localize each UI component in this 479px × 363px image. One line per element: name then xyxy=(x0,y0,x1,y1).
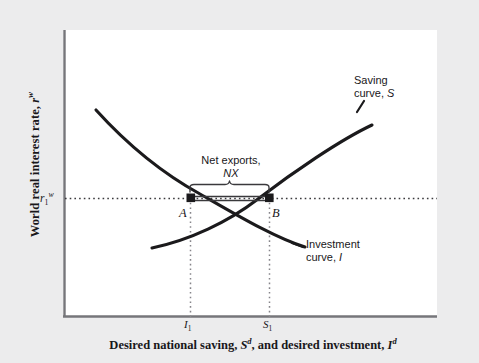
x-tick-label-i1: I1 xyxy=(184,318,191,333)
y-axis-title: World real interest rate, rw xyxy=(25,45,42,285)
x-tick-i-subscript: 1 xyxy=(188,324,192,333)
point-b-marker xyxy=(265,194,274,203)
net-exports-label: Net exports, NX xyxy=(195,154,267,180)
y-axis-title-symbol: r xyxy=(28,98,42,103)
figure-container: World real interest rate, rw Desired nat… xyxy=(0,0,479,363)
x-tick-s-subscript: 1 xyxy=(269,324,273,333)
y-axis-title-superscript: w xyxy=(25,92,35,98)
saving-curve-label: Saving curve, S xyxy=(354,74,394,100)
investment-curve-line1: Investment xyxy=(306,238,360,251)
x-axis-title: Desired national saving, Sd, and desired… xyxy=(63,336,443,353)
y-tick-label-r1w: r1w xyxy=(40,190,54,207)
point-a-label: A xyxy=(179,206,187,221)
point-a-marker xyxy=(187,194,196,203)
saving-label-leader xyxy=(357,101,364,112)
saving-curve-line1: Saving xyxy=(354,74,394,87)
investment-curve-line2-text: curve, xyxy=(306,251,339,263)
saving-curve-symbol: S xyxy=(387,87,394,99)
y-tick-superscript: w xyxy=(48,190,53,199)
y-axis-title-text: World real interest rate, xyxy=(28,103,42,237)
x-axis-title-part2: , and desired investment, xyxy=(252,338,388,352)
net-exports-brace xyxy=(190,181,269,192)
x-axis-title-sup-d2: d xyxy=(392,336,396,346)
net-exports-line2: NX xyxy=(195,167,267,180)
saving-curve-line2-text: curve, xyxy=(354,87,387,99)
investment-curve-label: Investment curve, I xyxy=(306,238,360,264)
investment-curve-symbol: I xyxy=(339,251,342,263)
point-b-label: B xyxy=(272,206,280,221)
saving-curve-line2: curve, S xyxy=(354,87,394,100)
x-tick-label-s1: S1 xyxy=(263,318,272,333)
chart-svg xyxy=(0,0,479,363)
net-exports-line1: Net exports, xyxy=(195,154,267,167)
x-axis-title-part1: Desired national saving, xyxy=(109,338,240,352)
y-tick-subscript: 1 xyxy=(44,198,48,207)
investment-curve-line2: curve, I xyxy=(306,251,360,264)
